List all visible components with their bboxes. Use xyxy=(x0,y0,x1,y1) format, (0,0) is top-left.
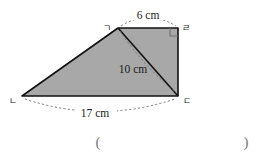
quadrilateral-diagram: ㄱ ㄹ ㄷ ㄴ 6 cm 10 cm 17 cm ( ) xyxy=(0,0,257,159)
vertex-label-r: ㄹ xyxy=(182,23,190,33)
vertex-label-d: ㄷ xyxy=(183,96,191,106)
measure-label-base: 17 cm xyxy=(81,107,109,119)
geometry-problem-figure: ㄱ ㄹ ㄷ ㄴ 6 cm 10 cm 17 cm ( ) xyxy=(0,0,257,159)
vertex-label-n: ㄴ xyxy=(9,96,17,106)
measure-label-top: 6 cm xyxy=(137,9,160,21)
answer-open-paren: ( xyxy=(96,134,101,151)
measure-label-diagonal: 10 cm xyxy=(119,63,147,75)
answer-close-paren: ) xyxy=(244,134,249,151)
vertex-label-g: ㄱ xyxy=(103,23,111,33)
